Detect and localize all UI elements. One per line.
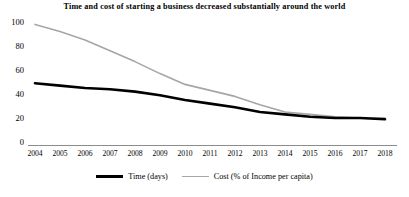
y-tick-label: 0: [2, 138, 24, 147]
y-tick-label: 100: [2, 18, 24, 27]
x-tick-label: 2018: [372, 150, 398, 158]
legend-label-cost: Cost (% of Income per capita): [214, 172, 313, 181]
x-tick-label: 2015: [297, 150, 323, 158]
x-tick-label: 2004: [22, 150, 48, 158]
y-tick-label: 20: [2, 114, 24, 123]
legend-swatch-time-icon: [96, 175, 123, 178]
legend-swatch-cost-icon: [182, 176, 209, 177]
chart-legend: Time (days) Cost (% of Income per capita…: [0, 172, 409, 181]
y-tick-label: 40: [2, 90, 24, 99]
chart-canvas: [0, 0, 409, 197]
x-tick-label: 2016: [322, 150, 348, 158]
x-tick-label: 2009: [147, 150, 173, 158]
plot-area: 100806040200 200420052006200720082009201…: [0, 0, 409, 197]
x-tick-label: 2007: [97, 150, 123, 158]
legend-label-time: Time (days): [128, 172, 168, 181]
x-tick-label: 2017: [347, 150, 373, 158]
chart-figure: Time and cost of starting a business dec…: [0, 0, 409, 197]
x-tick-label: 2010: [172, 150, 198, 158]
x-tick-label: 2005: [47, 150, 73, 158]
x-tick-label: 2013: [247, 150, 273, 158]
x-tick-label: 2008: [122, 150, 148, 158]
y-tick-label: 60: [2, 66, 24, 75]
x-tick-label: 2006: [72, 150, 98, 158]
y-tick-label: 80: [2, 42, 24, 51]
x-tick-label: 2012: [222, 150, 248, 158]
x-tick-label: 2014: [272, 150, 298, 158]
legend-item-time: Time (days): [96, 172, 168, 181]
x-tick-label: 2011: [197, 150, 223, 158]
legend-item-cost: Cost (% of Income per capita): [182, 172, 313, 181]
series-line-time: [35, 83, 385, 119]
